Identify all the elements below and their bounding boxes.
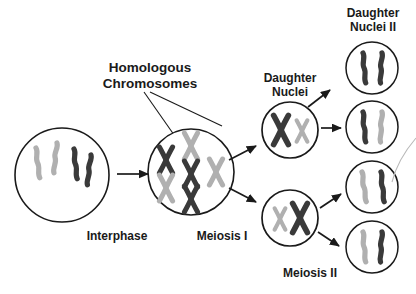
nucleus-ii-4-membrane (346, 221, 398, 273)
arrow-meiosis-i-to-daughter-top (229, 146, 256, 160)
cell-interphase (15, 128, 109, 222)
homologous-chromosomes-label-line2: Chromosomes (103, 76, 198, 91)
cell-daughter-nucleus-bottom (262, 190, 318, 246)
interphase-label: Interphase (87, 229, 148, 243)
daughter-top-membrane (262, 102, 318, 158)
arrow-meiosis-i-to-daughter-bottom (229, 188, 256, 202)
meiosis-ii-label: Meiosis II (283, 266, 337, 280)
homologous-chromosomes-label-line1: Homologous (109, 60, 192, 75)
daughter-nuclei-ii-label-line2: Nuclei II (350, 20, 396, 34)
cell-daughter-nucleus-top (262, 102, 318, 158)
meiosis-diagram: Homologous Chromosomes Daughter Nuclei D… (0, 0, 416, 294)
cell-meiosis-i (148, 129, 234, 215)
diagram-canvas: Homologous Chromosomes Daughter Nuclei D… (0, 0, 416, 294)
cell-daughter-nucleus-ii-3 (346, 161, 398, 213)
interphase-cell-membrane (15, 128, 109, 222)
daughter-nuclei-label-line2: Nuclei (272, 85, 308, 99)
interphase-chromosome-3 (73, 149, 77, 179)
leader-line-right (150, 92, 222, 126)
arrow-daughter-top-to-nucleus-1 (308, 90, 330, 107)
cell-daughter-nucleus-ii-1 (346, 42, 398, 94)
nucleus-ii-3-membrane (346, 161, 398, 213)
daughter-bottom-membrane (262, 190, 318, 246)
meiosis-i-label: Meiosis I (197, 229, 248, 243)
nucleus-ii-1-membrane (346, 42, 398, 94)
nucleus-ii-2-membrane (346, 101, 398, 153)
cell-daughter-nucleus-ii-4 (346, 221, 398, 273)
daughter-nuclei-label-line1: Daughter (264, 71, 317, 85)
cell-daughter-nucleus-ii-2 (346, 101, 398, 153)
arrow-daughter-bottom-to-nucleus-4 (318, 232, 339, 246)
arrow-daughter-bottom-to-nucleus-3 (320, 194, 341, 208)
daughter-nuclei-ii-label-line1: Daughter (347, 6, 400, 20)
